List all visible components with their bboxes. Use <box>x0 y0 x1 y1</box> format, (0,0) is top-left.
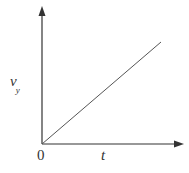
y-axis-label-subscript: y <box>16 85 20 95</box>
y-axis-label: vy <box>10 73 21 92</box>
origin-label: 0 <box>37 147 45 164</box>
data-line <box>42 42 161 144</box>
x-axis-label: t <box>101 147 105 164</box>
y-axis-arrow-icon <box>39 6 46 16</box>
x-axis-arrow-icon <box>174 141 184 148</box>
chart-canvas <box>0 0 189 173</box>
